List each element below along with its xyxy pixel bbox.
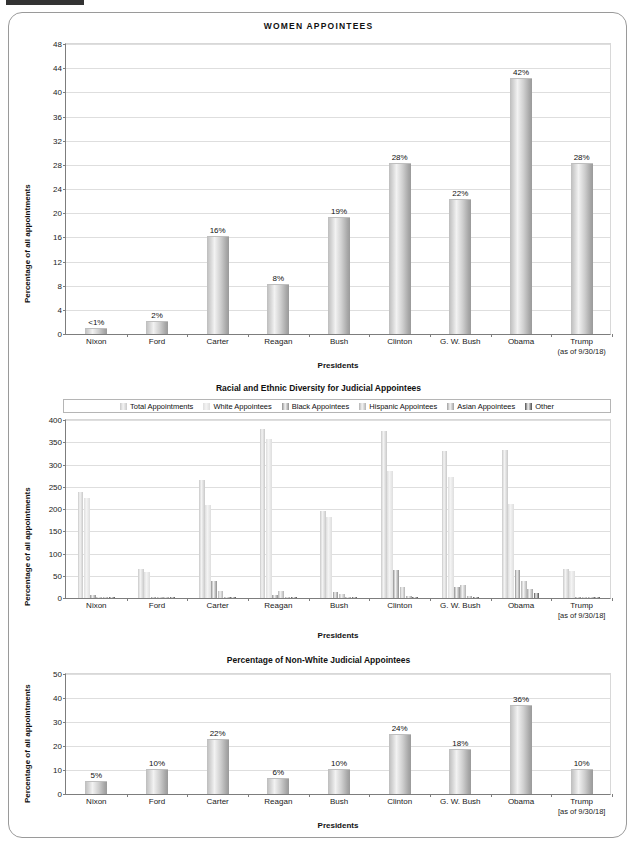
chart2-bar-hispanic-appointees [339, 594, 345, 598]
chart1-ytick-mark [63, 141, 66, 142]
chart1-bar: 42% [510, 78, 532, 335]
chart2-ytick-mark [63, 509, 66, 510]
chart2-bar-white-appointees [84, 498, 90, 598]
chart3-ytick-mark [63, 746, 66, 747]
chart1-xtick-mark [551, 334, 552, 337]
chart2-xtick-label-ford: Ford [149, 601, 165, 610]
chart2-bar-total-appointments [563, 569, 569, 598]
legend-label: White Appointees [213, 402, 271, 411]
chart1-xtick-mark [369, 334, 370, 337]
chart1-xtick-label-clinton: Clinton [387, 337, 412, 346]
chart2-bar-other [352, 597, 358, 598]
chart2-xtick-sublabel: [as of 9/30/18] [558, 611, 606, 620]
chart1-ytick-label: 20 [53, 209, 62, 218]
figure-page: WOMEN APPOINTEES Percentage of all appoi… [0, 0, 635, 856]
chart1-bar: <1% [85, 328, 107, 334]
chart3-plot-area: 01020304050NixonFordCarterReaganBushClin… [65, 673, 611, 795]
chart3-ytick-label: 10 [53, 766, 62, 775]
chart2-xtick-mark [187, 598, 188, 601]
chart3-xtick-label-trump: Trump[as of 9/30/18] [558, 797, 606, 816]
chart1-ytick-mark [63, 213, 66, 214]
chart2-xtick-mark [127, 598, 128, 601]
chart3-xtick-mark [248, 794, 249, 797]
chart1-bar-value: 28% [574, 153, 590, 162]
chart3-bar-value: 22% [210, 729, 226, 738]
chart3-xtick-mark [491, 794, 492, 797]
chart2-ytick-mark [63, 554, 66, 555]
chart1-ytick-mark [63, 92, 66, 93]
chart1-bar-value: 28% [392, 153, 408, 162]
chart1-x-axis-label: Presidents [65, 361, 611, 370]
chart2-bar-other [473, 597, 479, 598]
chart1-ytick-mark [63, 286, 66, 287]
chart1-xtick-sublabel: (as of 9/30/18) [557, 347, 605, 356]
chart2-bar-white-appointees [144, 572, 150, 598]
chart1-xtick-label-carter: Carter [207, 337, 229, 346]
chart2-y-axis-label: Percentage of all appointments [23, 487, 32, 606]
chart2-ytick-label: 200 [49, 505, 62, 514]
chart1-ytick-label: 32 [53, 136, 62, 145]
chart2-xtick-mark [309, 598, 310, 601]
chart2-bar-asian-appointees [345, 597, 351, 598]
chart2-bar-asian-appointees [588, 597, 594, 598]
chart1-xtick-mark [612, 334, 613, 337]
chart2-ytick-label: 300 [49, 460, 62, 469]
chart2-ytick-label: 350 [49, 438, 62, 447]
chart3-y-axis-label: Percentage of all appointments [23, 684, 32, 803]
chart1-xtick-mark [430, 334, 431, 337]
chart3-xtick-label-clinton: Clinton [387, 797, 412, 806]
legend-label: Black Appointees [292, 402, 350, 411]
chart1-xtick-mark [127, 334, 128, 337]
figure-frame: WOMEN APPOINTEES Percentage of all appoi… [8, 12, 627, 838]
chart3-ytick-mark [63, 698, 66, 699]
chart3-bar-value: 5% [91, 771, 103, 780]
chart2-bar-hispanic-appointees [96, 597, 102, 598]
chart1-ytick-label: 40 [53, 88, 62, 97]
chart2-bar-hispanic-appointees [157, 597, 163, 598]
chart1-xtick-label-trump: Trump(as of 9/30/18) [557, 337, 605, 356]
chart2-bar-white-appointees [387, 471, 393, 598]
chart3-bar-value: 10% [574, 759, 590, 768]
legend-item: Black Appointees [282, 402, 350, 411]
chart2-bar-hispanic-appointees [400, 587, 406, 598]
chart2-bar-other [412, 597, 418, 598]
legend-item: Other [525, 402, 554, 411]
chart1-title: WOMEN APPOINTEES [9, 21, 628, 31]
legend-swatch [120, 403, 127, 410]
chart2-bar-total-appointments [138, 569, 144, 598]
chart2-ytick-label: 250 [49, 482, 62, 491]
chart1-bar-value: 16% [210, 226, 226, 235]
chart2-xtick-label-clinton: Clinton [387, 601, 412, 610]
chart1-ytick-label: 16 [53, 233, 62, 242]
chart2-xtick-mark [369, 598, 370, 601]
chart3-bar: 22% [207, 739, 229, 794]
chart2-xtick-label-reagan: Reagan [264, 601, 292, 610]
chart2-bar-white-appointees [508, 504, 514, 598]
chart2-bar-hispanic-appointees [460, 585, 466, 599]
chart2-bar-black-appointees [575, 597, 581, 598]
chart1-bar-value: <1% [88, 318, 104, 327]
chart-percentage-non-white: Percentage of Non-White Judicial Appoint… [9, 653, 628, 839]
chart1-ytick-label: 36 [53, 112, 62, 121]
chart1-ytick-mark [63, 165, 66, 166]
chart2-ytick-mark [63, 442, 66, 443]
legend-item: Hispanic Appointees [359, 402, 437, 411]
chart1-bar: 28% [571, 163, 593, 334]
chart1-ytick-label: 12 [53, 257, 62, 266]
chart-women-appointees: WOMEN APPOINTEES Percentage of all appoi… [9, 13, 628, 383]
chart3-ytick-label: 30 [53, 718, 62, 727]
chart2-x-axis-label: Presidents [65, 631, 611, 640]
chart2-bar-hispanic-appointees [521, 581, 527, 598]
chart2-xtick-label-obama: Obama [508, 601, 534, 610]
chart2-gridline [66, 465, 610, 466]
chart2-xtick-mark [612, 598, 613, 601]
chart3-ytick-label: 0 [58, 790, 62, 799]
chart1-y-axis-label: Percentage of all appointments [23, 184, 32, 303]
chart2-ytick-mark [63, 465, 66, 466]
chart3-bar-value: 18% [452, 739, 468, 748]
chart2-bar-white-appointees [205, 505, 211, 598]
chart3-bar: 10% [571, 769, 593, 794]
chart2-bar-total-appointments [320, 511, 326, 598]
chart3-bar: 10% [328, 769, 350, 794]
chart2-bar-black-appointees [272, 595, 278, 598]
